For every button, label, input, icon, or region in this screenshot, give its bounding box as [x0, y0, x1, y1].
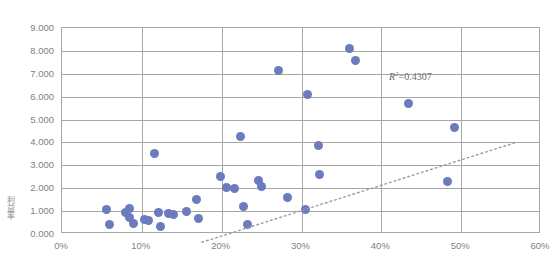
gridline-horizontal — [62, 188, 539, 189]
data-point — [301, 205, 310, 214]
data-point — [156, 222, 165, 231]
data-point — [144, 216, 153, 225]
scatter-chart: 利益率 0.0001.0002.0003.0004.0005.0006.0007… — [0, 0, 556, 272]
x-axis-tick-label: 20% — [201, 240, 241, 251]
data-point — [274, 66, 283, 75]
y-axis-tick-label: 3.000 — [6, 159, 54, 170]
r-squared-value: 0.4307 — [404, 71, 432, 82]
y-axis-tick-label: 4.000 — [6, 136, 54, 147]
y-axis-tick-label: 2.000 — [6, 182, 54, 193]
gridline-horizontal — [62, 142, 539, 143]
data-point — [450, 123, 459, 132]
data-point — [230, 184, 239, 193]
data-point — [257, 182, 266, 191]
data-point — [129, 219, 138, 228]
x-axis-tick-label: 30% — [281, 240, 321, 251]
data-point — [105, 220, 114, 229]
data-point — [154, 208, 163, 217]
data-point — [303, 90, 312, 99]
data-point — [345, 44, 354, 53]
gridline-vertical — [461, 28, 462, 232]
x-axis-tick-label: 0% — [41, 240, 81, 251]
y-axis-tick-label: 8.000 — [6, 44, 54, 55]
data-point — [194, 214, 203, 223]
x-axis-tick-label: 60% — [520, 240, 556, 251]
data-point — [192, 195, 201, 204]
data-point — [404, 99, 413, 108]
data-point — [102, 205, 111, 214]
gridline-vertical — [381, 28, 382, 232]
y-axis-tick-label: 1.000 — [6, 205, 54, 216]
gridline-vertical — [142, 28, 143, 232]
r-squared-annotation: R2=0.4307 — [389, 70, 432, 82]
data-point — [315, 170, 324, 179]
trendline — [123, 55, 556, 261]
x-axis-tick-label: 10% — [121, 240, 161, 251]
plot-area — [61, 27, 540, 233]
x-axis-tick-label: 40% — [360, 240, 400, 251]
data-point — [443, 177, 452, 186]
y-axis-tick-label: 6.000 — [6, 90, 54, 101]
data-point — [216, 172, 225, 181]
y-axis-tick-label: 7.000 — [6, 67, 54, 78]
gridline-horizontal — [62, 51, 539, 52]
data-point — [351, 56, 360, 65]
data-point — [169, 210, 178, 219]
gridline-horizontal — [62, 97, 539, 98]
data-point — [314, 141, 323, 150]
data-point — [283, 193, 292, 202]
gridline-horizontal — [62, 74, 539, 75]
y-axis-tick-label: 5.000 — [6, 113, 54, 124]
x-axis-tick-label: 50% — [440, 240, 480, 251]
data-point — [236, 132, 245, 141]
gridline-vertical — [302, 28, 303, 232]
y-axis-tick-label: 0.000 — [6, 228, 54, 239]
y-axis-tick-label: 9.000 — [6, 22, 54, 33]
gridline-horizontal — [62, 165, 539, 166]
data-point — [243, 220, 252, 229]
data-point — [182, 207, 191, 216]
gridline-horizontal — [62, 120, 539, 121]
data-point — [150, 149, 159, 158]
gridline-vertical — [222, 28, 223, 232]
